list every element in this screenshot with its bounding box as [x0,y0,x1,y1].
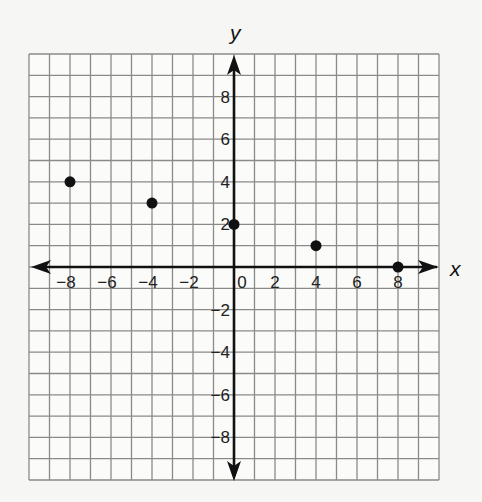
x-tick-label: −6 [97,273,116,292]
x-tick-label: −4 [138,273,157,292]
x-tick-label: 4 [311,273,320,292]
data-point [147,198,158,209]
data-point [311,240,322,251]
y-tick-label: −2 [211,301,230,320]
data-point [393,262,404,273]
y-tick-label: −4 [211,343,230,362]
y-tick-label: 4 [221,173,230,192]
x-axis-label: x [449,257,462,280]
y-axis-label: y [228,21,242,44]
data-point [65,176,76,187]
x-tick-label: −8 [56,273,75,292]
y-tick-label: 6 [221,130,230,149]
x-tick-label: −2 [179,273,198,292]
y-tick-label: −6 [211,386,230,405]
data-point [229,219,240,230]
coordinate-plane: −8−6−4−202468 8642−2−4−6−8 x y [0,0,482,502]
y-tick-label: −8 [211,428,230,447]
y-tick-label: 8 [221,88,230,107]
x-tick-label: 6 [352,273,361,292]
x-tick-label: 8 [393,273,402,292]
x-tick-label: 0 [237,273,246,292]
x-tick-label: 2 [270,273,279,292]
